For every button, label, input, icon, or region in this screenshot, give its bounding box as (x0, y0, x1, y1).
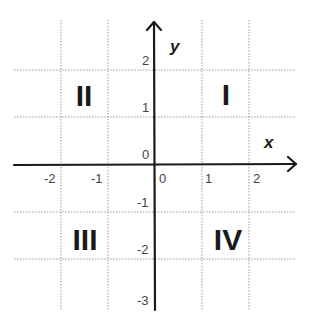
x-tick-1: 1 (205, 171, 212, 186)
y-tick-minus-2: -2 (137, 242, 149, 257)
x-tick-minus-1: -1 (91, 171, 103, 186)
quadrant-label-iv: IV (214, 223, 242, 256)
x-tick-0: 0 (159, 171, 166, 186)
y-axis-label: y (169, 37, 181, 56)
y-tick-0: 0 (142, 147, 149, 162)
coordinate-plane: y x -2 -1 0 1 2 2 1 0 -1 -2 -3 I II III … (0, 0, 314, 331)
y-tick-minus-1: -1 (137, 195, 149, 210)
y-tick-1: 1 (142, 100, 149, 115)
y-tick-minus-3: -3 (137, 293, 149, 308)
quadrant-label-iii: III (72, 223, 97, 256)
quadrant-label-i: I (222, 78, 230, 111)
x-tick-minus-2: -2 (44, 171, 56, 186)
x-tick-2: 2 (253, 171, 260, 186)
x-axis-label: x (263, 133, 275, 152)
quadrant-label-ii: II (76, 79, 93, 112)
y-tick-2: 2 (142, 53, 149, 68)
